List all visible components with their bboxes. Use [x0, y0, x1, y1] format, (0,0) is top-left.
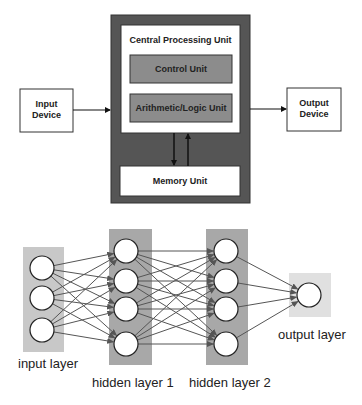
neuron-node: [30, 256, 54, 280]
input-device-line1: Input: [20, 99, 73, 110]
diagram-canvas: [0, 0, 362, 405]
memory-unit-label: Memory Unit: [120, 176, 240, 186]
input-device-line2: Device: [20, 110, 73, 121]
output-layer-label: output layer: [278, 327, 346, 342]
output-device-line2: Device: [287, 109, 341, 120]
control-unit-label: Control Unit: [130, 64, 232, 74]
neuron-node: [30, 318, 54, 342]
neuron-node: [114, 297, 138, 321]
neuron-node: [297, 283, 321, 307]
neuron-node: [214, 332, 238, 356]
output-device-label: Output Device: [287, 98, 341, 120]
input-device-label: Input Device: [20, 99, 73, 121]
hidden-layer-2-label: hidden layer 2: [189, 375, 271, 390]
network-edges: [51, 251, 298, 344]
neuron-node: [114, 269, 138, 293]
output-device-line1: Output: [287, 98, 341, 109]
neuron-node: [114, 332, 138, 356]
alu-label: Arithmetic/Logic Unit: [130, 103, 232, 113]
input-layer-label: input layer: [18, 356, 78, 371]
neuron-node: [214, 269, 238, 293]
hidden-layer-1-label: hidden layer 1: [92, 375, 174, 390]
neuron-node: [214, 239, 238, 263]
neuron-node: [30, 286, 54, 310]
cpu-title: Central Processing Unit: [121, 35, 240, 45]
neuron-node: [114, 239, 138, 263]
neuron-node: [214, 297, 238, 321]
